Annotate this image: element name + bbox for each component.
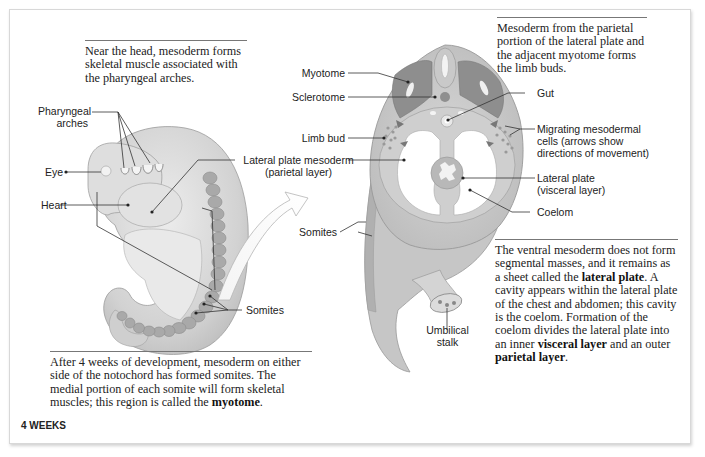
label-pharyngeal-arches: Pharyngeal arches bbox=[38, 105, 88, 129]
label-migrating-line3: directions of movement) bbox=[537, 147, 649, 159]
caption-ventral-bold-1: lateral plate bbox=[582, 270, 645, 284]
label-migrating-line2: cells (arrows show bbox=[537, 135, 649, 147]
label-coelom: Coelom bbox=[537, 206, 573, 218]
caption-somites: After 4 weeks of development, mesoderm o… bbox=[50, 351, 312, 410]
label-visceral-line2: (visceral layer) bbox=[537, 184, 605, 196]
label-pharyngeal-line1: Pharyngeal bbox=[38, 105, 88, 117]
label-visceral-line1: Lateral plate bbox=[537, 172, 605, 184]
label-eye: Eye bbox=[45, 166, 63, 178]
caption-limb: Mesoderm from the parietal portion of th… bbox=[497, 17, 647, 76]
caption-ventral: The ventral mesoderm does not form segme… bbox=[495, 239, 678, 365]
caption-head-text: Near the head, mesoderm forms skeletal m… bbox=[85, 44, 241, 85]
label-somites-left: Somites bbox=[246, 304, 284, 316]
label-heart: Heart bbox=[41, 199, 67, 211]
label-lateral-plate-mesoderm: Lateral plate mesoderm (parietal layer) bbox=[236, 154, 361, 178]
label-pharyngeal-line2: arches bbox=[38, 117, 88, 129]
label-lateral-plate-visceral: Lateral plate (visceral layer) bbox=[537, 172, 605, 196]
label-lateral-plate-line1: Lateral plate mesoderm bbox=[236, 154, 361, 166]
label-limb-bud: Limb bud bbox=[290, 132, 345, 144]
label-umbilical-line1: Umbilical bbox=[420, 324, 475, 336]
caption-limb-text: Mesoderm from the parietal portion of th… bbox=[497, 21, 644, 75]
label-gut: Gut bbox=[537, 87, 554, 99]
caption-somites-bold: myotome bbox=[212, 395, 260, 409]
label-somites-right: Somites bbox=[295, 226, 337, 238]
label-umbilical-line2: stalk bbox=[420, 336, 475, 348]
caption-ventral-bold-2: visceral layer bbox=[538, 337, 607, 351]
stage-label: 4 WEEKS bbox=[21, 420, 66, 431]
caption-ventral-bold-3: parietal layer bbox=[495, 350, 565, 364]
caption-ventral-text-3: and an outer bbox=[607, 337, 670, 351]
left-embryo bbox=[88, 127, 248, 355]
caption-ventral-end: . bbox=[565, 350, 568, 364]
label-myotome: Myotome bbox=[290, 67, 345, 79]
label-sclerotome: Sclerotome bbox=[280, 91, 345, 103]
caption-somites-end: . bbox=[260, 395, 263, 409]
label-lateral-plate-line2: (parietal layer) bbox=[236, 166, 361, 178]
label-umbilical-stalk: Umbilical stalk bbox=[420, 324, 475, 348]
label-migrating-cells: Migrating mesodermal cells (arrows show … bbox=[537, 123, 649, 159]
caption-head: Near the head, mesoderm forms skeletal m… bbox=[85, 40, 247, 85]
label-migrating-line1: Migrating mesodermal bbox=[537, 123, 649, 135]
